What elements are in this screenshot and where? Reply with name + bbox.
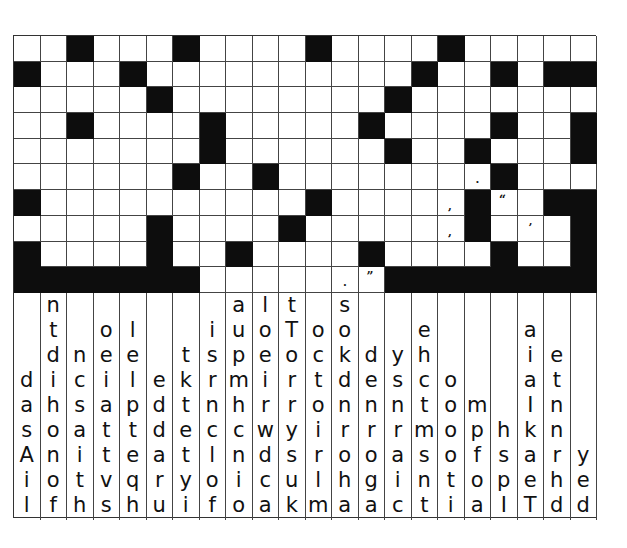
answer-cell[interactable] (253, 62, 280, 88)
answer-cell[interactable] (41, 242, 68, 268)
letter-tile[interactable]: r (287, 368, 296, 393)
answer-cell[interactable] (465, 87, 492, 113)
letter-tile[interactable]: q (126, 468, 139, 493)
answer-cell[interactable] (544, 113, 571, 139)
letter-tile[interactable]: A (20, 443, 34, 468)
letter-tile[interactable]: t (420, 393, 428, 418)
letter-tile[interactable]: p (497, 468, 510, 493)
answer-cell[interactable] (385, 190, 412, 216)
answer-cell[interactable] (306, 216, 333, 242)
answer-cell[interactable] (173, 242, 200, 268)
letter-tile[interactable]: e (179, 418, 192, 443)
letter-tile[interactable]: a (524, 443, 537, 468)
letter-tile[interactable]: l (130, 368, 136, 393)
answer-cell[interactable] (332, 139, 359, 165)
answer-cell[interactable] (94, 190, 121, 216)
letter-tile[interactable]: y (180, 468, 192, 493)
answer-cell[interactable] (359, 216, 386, 242)
answer-cell[interactable] (518, 139, 545, 165)
answer-cell[interactable] (306, 267, 333, 293)
letter-tile[interactable]: s (419, 443, 430, 468)
letter-tile[interactable]: d (365, 343, 378, 368)
letter-tile[interactable]: o (444, 418, 457, 443)
answer-cell[interactable] (518, 113, 545, 139)
letter-tile[interactable]: o (471, 468, 484, 493)
letter-tile[interactable]: c (312, 343, 324, 368)
letter-tile[interactable]: o (47, 468, 60, 493)
letter-tile[interactable]: t (102, 418, 110, 443)
letter-tile[interactable]: n (206, 393, 219, 418)
letter-tile[interactable]: s (498, 443, 509, 468)
letter-tile[interactable]: p (232, 343, 245, 368)
letter-tile[interactable]: t (420, 493, 428, 518)
answer-cell[interactable] (491, 216, 518, 242)
answer-cell[interactable] (412, 242, 439, 268)
answer-cell[interactable] (359, 139, 386, 165)
answer-cell[interactable] (41, 87, 68, 113)
letter-tile[interactable]: m (414, 418, 434, 443)
answer-cell[interactable] (41, 164, 68, 190)
answer-cell[interactable] (94, 242, 121, 268)
letter-tile[interactable]: m (229, 368, 249, 393)
answer-cell[interactable] (200, 36, 227, 62)
answer-cell[interactable] (491, 139, 518, 165)
letter-tile[interactable]: k (524, 418, 536, 443)
letter-tile[interactable]: y (577, 443, 589, 468)
answer-cell[interactable] (67, 62, 94, 88)
answer-cell[interactable] (279, 190, 306, 216)
letter-tile[interactable]: e (577, 468, 590, 493)
letter-tile[interactable]: i (24, 468, 30, 493)
letter-tile[interactable]: o (259, 318, 272, 343)
answer-cell[interactable] (94, 139, 121, 165)
answer-cell[interactable] (253, 36, 280, 62)
letter-tile[interactable]: m (467, 393, 487, 418)
letter-tile[interactable]: n (338, 393, 351, 418)
letter-tile[interactable]: a (471, 493, 484, 518)
answer-cell[interactable] (120, 190, 147, 216)
letter-tile[interactable]: a (232, 293, 245, 318)
letter-tile[interactable]: i (77, 443, 83, 468)
letter-tile[interactable]: r (314, 443, 323, 468)
answer-cell[interactable] (41, 62, 68, 88)
answer-cell[interactable] (438, 164, 465, 190)
letter-tile[interactable]: r (552, 443, 561, 468)
answer-cell[interactable] (332, 113, 359, 139)
answer-cell[interactable] (544, 139, 571, 165)
letter-tile[interactable]: a (100, 393, 113, 418)
letter-tile[interactable]: t (129, 418, 137, 443)
answer-cell[interactable] (94, 62, 121, 88)
answer-cell[interactable] (200, 242, 227, 268)
answer-cell[interactable] (14, 36, 41, 62)
letter-tile[interactable]: r (393, 418, 402, 443)
letter-tile[interactable]: o (47, 418, 60, 443)
answer-cell[interactable]: , (438, 216, 465, 242)
letter-tile[interactable]: y (392, 343, 404, 368)
letter-tile[interactable]: d (153, 418, 166, 443)
letter-tile[interactable]: d (259, 443, 272, 468)
letter-tile[interactable]: d (338, 368, 351, 393)
answer-cell[interactable] (67, 216, 94, 242)
answer-cell[interactable] (94, 113, 121, 139)
answer-cell[interactable] (438, 242, 465, 268)
answer-cell[interactable] (147, 113, 174, 139)
letter-tile[interactable]: n (73, 343, 86, 368)
answer-cell[interactable] (491, 87, 518, 113)
answer-cell[interactable] (332, 190, 359, 216)
answer-cell[interactable] (518, 190, 545, 216)
answer-cell[interactable] (67, 190, 94, 216)
letter-tile[interactable]: n (418, 468, 431, 493)
letter-tile[interactable]: o (312, 318, 325, 343)
answer-cell[interactable] (41, 190, 68, 216)
letter-tile[interactable]: t (314, 368, 322, 393)
answer-cell[interactable] (94, 164, 121, 190)
answer-cell[interactable] (412, 36, 439, 62)
answer-cell[interactable] (306, 87, 333, 113)
answer-cell[interactable] (412, 216, 439, 242)
letter-tile[interactable]: p (471, 418, 484, 443)
letter-tile[interactable]: l (24, 493, 30, 518)
letter-tile[interactable]: e (550, 343, 563, 368)
answer-cell[interactable]: . (332, 267, 359, 293)
letter-tile[interactable]: t (76, 468, 84, 493)
letter-tile[interactable]: l (130, 318, 136, 343)
answer-cell[interactable] (359, 62, 386, 88)
